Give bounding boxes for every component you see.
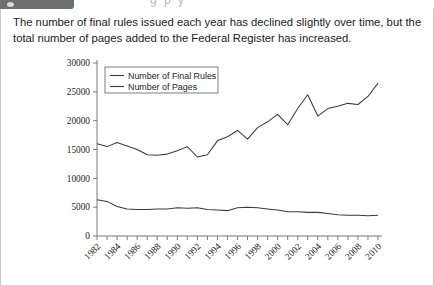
page-root: g p y The number of final rules issued e… [0,0,434,285]
y-tick-label: 15000 [67,145,91,155]
y-tick-label: 0 [85,231,90,241]
disc-icon [7,2,14,7]
series-line [97,200,378,216]
y-tick-label: 25000 [67,87,91,97]
x-tick-label: 1996 [223,241,243,261]
y-axis-tick-labels: 050001000015000200002500030000 [67,58,91,241]
header-tab[interactable] [0,0,74,9]
x-tick-label: 1988 [142,241,162,261]
x-axis-tick-labels: 1982198419861988199019921994199619982000… [82,241,383,261]
x-tick-label: 2000 [263,241,283,261]
y-tick-label: 5000 [71,202,90,212]
window-header-strip: g p y [0,0,434,9]
x-tick-label: 2006 [323,241,343,261]
chart-canvas: 050001000015000200002500030000 198219841… [1,50,434,285]
x-tick-label: 1998 [243,241,263,261]
x-tick-label: 2008 [343,241,363,261]
x-tick-label: 1992 [183,241,203,261]
x-tick-label: 1990 [162,241,182,261]
legend-label: Number of Pages [128,82,198,92]
line-chart: 050001000015000200002500030000 198219841… [1,50,434,285]
chart-legend: Number of Final RulesNumber of Pages [105,67,218,93]
y-tick-label: 20000 [67,116,91,126]
y-axis-tick-marks [93,63,97,236]
x-axis-tick-marks [97,236,378,240]
figure-caption: The number of final rules issued each ye… [13,15,423,46]
x-tick-label: 1986 [122,241,142,261]
x-tick-label: 1982 [82,241,102,261]
header-ghost-text: g p y [150,0,186,7]
legend-label: Number of Final Rules [128,71,217,81]
y-tick-label: 30000 [67,58,91,68]
x-tick-label: 2010 [363,241,383,261]
x-tick-label: 2004 [303,241,323,261]
series-line [97,83,378,157]
x-tick-label: 1984 [102,241,122,261]
x-tick-label: 2002 [283,241,303,261]
x-tick-label: 1994 [203,241,223,261]
y-tick-label: 10000 [67,174,91,184]
content-card: The number of final rules issued each ye… [0,9,434,285]
data-series-group [97,83,378,216]
